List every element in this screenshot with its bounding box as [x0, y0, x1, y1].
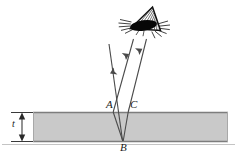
- thin-film-interference-figure: A C B t: [0, 0, 237, 158]
- label-point-b: B: [120, 142, 127, 153]
- thickness-arrowhead-up: [19, 113, 25, 120]
- incident-ray-arrowhead-icon: [110, 68, 117, 75]
- ray-c-arrowhead-icon: [135, 48, 142, 55]
- eye-icon: [119, 7, 171, 38]
- diagram-canvas: [0, 0, 237, 158]
- slab-fill: [33, 112, 228, 142]
- thickness-arrowhead-down: [19, 135, 25, 142]
- label-point-c: C: [130, 99, 137, 110]
- eye-lashes-bottom: [136, 30, 144, 36]
- label-point-a: A: [106, 99, 113, 110]
- film-slab: [33, 112, 228, 142]
- label-thickness: t: [12, 119, 15, 129]
